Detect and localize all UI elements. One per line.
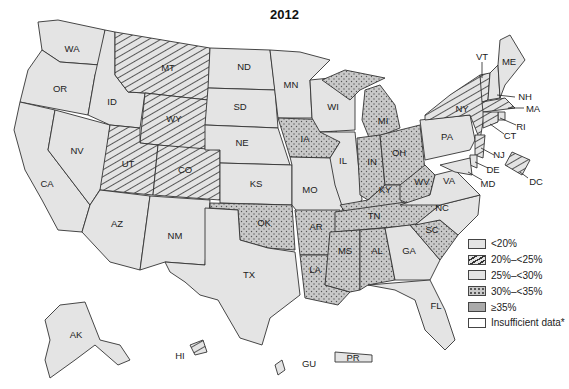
label-TX: TX xyxy=(243,269,256,280)
state-FL xyxy=(368,280,455,350)
label-UT: UT xyxy=(122,158,135,169)
legend-label: ≥35% xyxy=(491,302,517,313)
label-FL: FL xyxy=(430,300,441,311)
label-KY: KY xyxy=(379,184,392,195)
label-NJ: NJ xyxy=(493,149,505,160)
label-DC: DC xyxy=(529,176,543,187)
label-NY: NY xyxy=(455,103,469,114)
state-GU xyxy=(275,360,285,375)
label-WV: WV xyxy=(414,176,430,187)
label-KS: KS xyxy=(250,178,263,189)
swatch-lt20 xyxy=(468,239,486,249)
label-MS: MS xyxy=(338,245,352,256)
label-NC: NC xyxy=(435,202,449,213)
state-DC xyxy=(505,152,530,175)
label-MD: MD xyxy=(481,178,496,189)
state-MS xyxy=(325,230,360,292)
label-MO: MO xyxy=(302,184,317,195)
legend-label: 30%–<35% xyxy=(491,286,542,297)
label-MA: MA xyxy=(526,103,541,114)
legend-item-insufficient: Insufficient data* xyxy=(468,315,565,331)
label-NE: NE xyxy=(235,137,248,148)
label-AK: AK xyxy=(70,329,83,340)
legend-label: <20% xyxy=(491,238,517,249)
swatch-30to35 xyxy=(468,286,486,296)
label-NV: NV xyxy=(70,145,84,156)
swatch-ge35 xyxy=(468,302,486,312)
label-IA: IA xyxy=(301,133,311,144)
legend-item-ge35: ≥35% xyxy=(468,299,565,315)
swatch-25to30 xyxy=(468,270,486,280)
label-AL: AL xyxy=(371,245,383,256)
label-NM: NM xyxy=(168,230,183,241)
legend-item-lt20: <20% xyxy=(468,236,565,252)
legend-label: 25%–<30% xyxy=(491,270,542,281)
label-CA: CA xyxy=(40,178,54,189)
label-OR: OR xyxy=(53,83,67,94)
label-WI: WI xyxy=(327,101,339,112)
label-IN: IN xyxy=(367,156,377,167)
legend-label: 20%–<25% xyxy=(491,254,542,265)
swatch-insufficient xyxy=(468,318,486,328)
state-HI xyxy=(190,340,207,355)
state-CT xyxy=(483,112,498,128)
label-OH: OH xyxy=(392,147,406,158)
label-ND: ND xyxy=(237,61,251,72)
label-ID: ID xyxy=(107,96,117,107)
label-IL: IL xyxy=(339,155,347,166)
label-MT: MT xyxy=(161,62,175,73)
label-WY: WY xyxy=(166,113,182,124)
label-ME: ME xyxy=(502,56,516,67)
label-MN: MN xyxy=(284,79,299,90)
label-AR: AR xyxy=(309,221,322,232)
label-TN: TN xyxy=(368,210,381,221)
label-DE: DE xyxy=(486,164,499,175)
legend-item-20to25: 20%–<25% xyxy=(468,252,565,268)
label-SC: SC xyxy=(425,224,438,235)
legend: <20% 20%–<25% 25%–<30% 30%–<35% ≥35% Ins… xyxy=(468,236,565,331)
label-GA: GA xyxy=(402,245,416,256)
label-AZ: AZ xyxy=(111,218,123,229)
label-MI: MI xyxy=(378,115,389,126)
label-RI: RI xyxy=(516,121,526,132)
legend-label: Insufficient data* xyxy=(491,317,565,328)
label-CO: CO xyxy=(178,164,192,175)
label-PA: PA xyxy=(441,131,454,142)
legend-item-30to35: 30%–<35% xyxy=(468,283,565,299)
label-NH: NH xyxy=(518,91,532,102)
label-CT: CT xyxy=(504,130,517,141)
label-PR: PR xyxy=(346,352,359,363)
label-OK: OK xyxy=(257,217,271,228)
state-AK xyxy=(45,302,130,378)
state-AZ xyxy=(82,190,150,270)
label-GU: GU xyxy=(302,358,316,369)
label-SD: SD xyxy=(233,101,246,112)
swatch-20to25 xyxy=(468,255,486,265)
label-HI: HI xyxy=(175,350,185,361)
label-VA: VA xyxy=(443,175,456,186)
legend-item-25to30: 25%–<30% xyxy=(468,268,565,284)
label-VT: VT xyxy=(476,51,488,62)
label-WA: WA xyxy=(65,43,81,54)
label-LA: LA xyxy=(309,264,321,275)
